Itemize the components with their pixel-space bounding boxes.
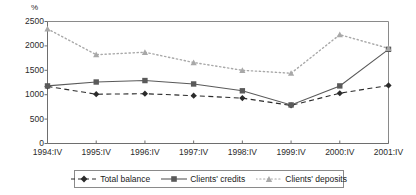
legend-marker-triangle-icon (256, 174, 282, 184)
legend-marker-square-icon (161, 174, 187, 184)
data-point-square (142, 78, 147, 83)
data-point-square (94, 79, 99, 84)
data-point-triangle (337, 32, 343, 38)
data-point-diamond (142, 91, 148, 97)
data-point-square (240, 88, 245, 93)
data-point-diamond (385, 82, 391, 88)
series-line-clients-deposits (48, 29, 389, 73)
data-point-square (45, 83, 50, 88)
line-chart: % 05001000150020002500 1994:IV1995:IV199… (0, 0, 416, 195)
plot-area (0, 0, 416, 195)
legend-item-clients-credits: Clients' credits (161, 174, 245, 184)
data-point-triangle (44, 26, 50, 32)
data-point-diamond (191, 93, 197, 99)
chart-legend: Total balance Clients' credits Clients' … (74, 170, 344, 188)
legend-label-total-balance: Total balance (100, 175, 150, 184)
data-point-diamond (93, 91, 99, 97)
legend-label-clients-credits: Clients' credits (190, 175, 245, 184)
legend-marker-diamond-icon (71, 174, 97, 184)
legend-label-clients-deposits: Clients' deposits (285, 175, 347, 184)
legend-item-total-balance: Total balance (71, 174, 150, 184)
data-point-diamond (239, 95, 245, 101)
legend-item-clients-deposits: Clients' deposits (256, 174, 347, 184)
data-point-diamond (337, 90, 343, 96)
data-point-square (288, 102, 293, 107)
data-point-square (337, 83, 342, 88)
data-point-square (191, 81, 196, 86)
